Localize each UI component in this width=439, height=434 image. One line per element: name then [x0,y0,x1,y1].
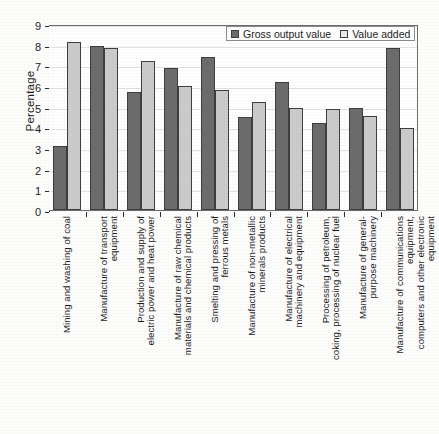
x-axis-category-labels: Mining and washing of coalManufacture of… [0,0,439,434]
x-axis-category-label: Manufacture of transport equipment [99,216,120,376]
x-axis-category-label: Manufacture of communications equipment,… [395,216,437,376]
x-axis-category-label: Mining and washing of coal [62,216,72,376]
x-axis-category-label: Smelting and pressing of ferrous metals [210,216,231,376]
bar-chart-figure: Percentage 0123456789 Gross output value… [0,0,439,434]
x-axis-category-label: Production and supply of electric power … [136,216,157,376]
x-axis-category-label: Processing of petroleum, coking, process… [321,216,342,376]
x-axis-category-label: Manufacture of general- purpose machiner… [358,216,379,376]
x-axis-category-label: Manufacture of raw chemical materials an… [173,216,194,376]
x-axis-category-label: Manufacture of electrical machinery and … [284,216,305,376]
x-axis-category-label: Manufacture of non-metallic minerals pro… [247,216,268,376]
